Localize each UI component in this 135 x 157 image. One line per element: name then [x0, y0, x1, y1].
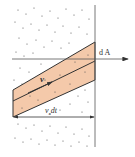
displacement-label: vxdt: [45, 106, 58, 116]
flux-diagram: d A v vxdt: [0, 0, 135, 157]
area-label: d A: [99, 48, 111, 57]
